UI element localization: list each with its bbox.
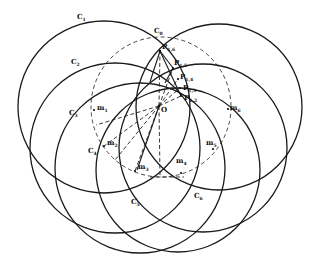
label-p16: P1,6: [162, 42, 175, 52]
label-p13: P1,3: [183, 83, 196, 93]
point-o: [158, 105, 161, 108]
label-m5: m5: [206, 138, 217, 148]
label-o: O: [161, 105, 167, 114]
point-m2: [103, 145, 105, 147]
label-c2: C2: [71, 57, 80, 67]
point-p13: [179, 87, 181, 89]
label-m4: m4: [176, 156, 187, 166]
label-c4: C4: [88, 146, 97, 156]
label-m1: m1: [97, 103, 108, 113]
point-p16: [159, 50, 161, 52]
label-c0: C0: [154, 26, 163, 36]
label-c3: C3: [69, 108, 78, 118]
label-c6: C6: [194, 191, 203, 201]
point-p14: [177, 78, 179, 80]
label-m6: m6: [230, 103, 241, 113]
geometric-diagram: C0 C1 C2 C3 C4 C5 C6 O P1,6 P1,5 P1,4 P1…: [0, 0, 317, 267]
label-p14: P1,4: [180, 72, 193, 82]
label-c5: C5: [131, 197, 140, 207]
point-m3: [134, 170, 136, 172]
point-p12: [180, 95, 182, 97]
label-m2: m2: [107, 138, 118, 148]
label-p12: P1,2: [184, 93, 197, 103]
circle-c4: [96, 88, 260, 252]
point-m6: [227, 108, 229, 110]
point-m4: [180, 172, 182, 174]
label-c1: C1: [77, 12, 86, 22]
point-m5: [212, 148, 214, 150]
label-p15: P1,5: [174, 58, 187, 68]
label-m3: m3: [138, 162, 149, 172]
point-p15: [172, 67, 174, 69]
point-m1: [93, 109, 95, 111]
